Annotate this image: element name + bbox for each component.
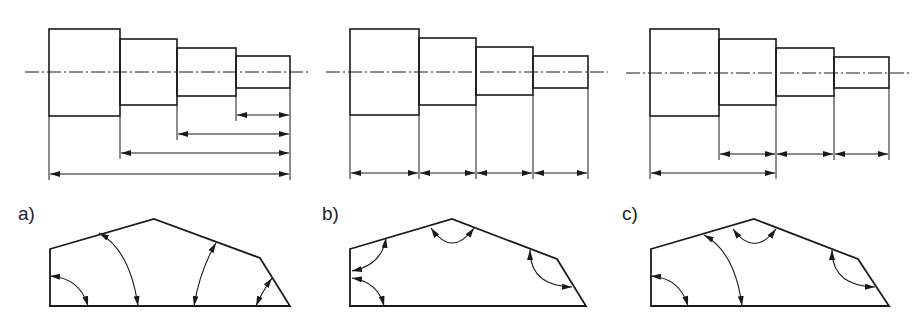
angle-dimension-arc — [832, 250, 875, 287]
panel-label-c: c) — [622, 203, 638, 225]
panel-a-drawing — [25, 29, 310, 306]
shaft-step — [476, 47, 533, 95]
shaft-step — [776, 48, 834, 96]
panel-c-drawing — [626, 29, 909, 306]
angle-dimension-arc — [733, 229, 776, 244]
angle-polygon — [350, 219, 586, 306]
angle-dimension-arc — [352, 278, 384, 306]
angle-dimension-arc — [530, 250, 572, 287]
angle-dimension-arc — [704, 235, 742, 306]
shaft-step — [719, 39, 776, 105]
panel-label-a: a) — [18, 203, 35, 225]
technical-drawing-canvas — [0, 0, 920, 322]
panel-label-b: b) — [322, 203, 339, 225]
angle-dimension-arc — [194, 243, 216, 306]
panel-b-drawing — [326, 29, 608, 306]
angle-dimension-arc — [256, 278, 272, 306]
angle-polygon — [50, 219, 290, 306]
angle-dimension-arc — [651, 276, 688, 306]
angle-polygon — [651, 219, 889, 306]
angle-dimension-arc — [50, 276, 88, 306]
angle-dimension-arc — [431, 228, 474, 243]
angle-dimension-arc — [99, 233, 138, 306]
